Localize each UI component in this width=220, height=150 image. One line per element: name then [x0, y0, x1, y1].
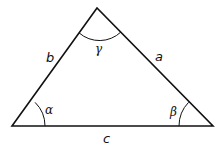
- side-a-label: a: [155, 49, 163, 64]
- side-c-label: c: [103, 131, 110, 146]
- triangle-diagram: α β γ b a c: [0, 0, 220, 150]
- beta-arc: [179, 102, 189, 126]
- triangle-outline: [12, 8, 213, 126]
- angle-beta-label: β: [169, 105, 177, 119]
- alpha-arc: [35, 102, 45, 126]
- side-b-label: b: [46, 50, 54, 65]
- gamma-arc: [79, 32, 121, 41]
- angle-gamma-label: γ: [95, 42, 103, 56]
- angle-alpha-label: α: [45, 103, 53, 117]
